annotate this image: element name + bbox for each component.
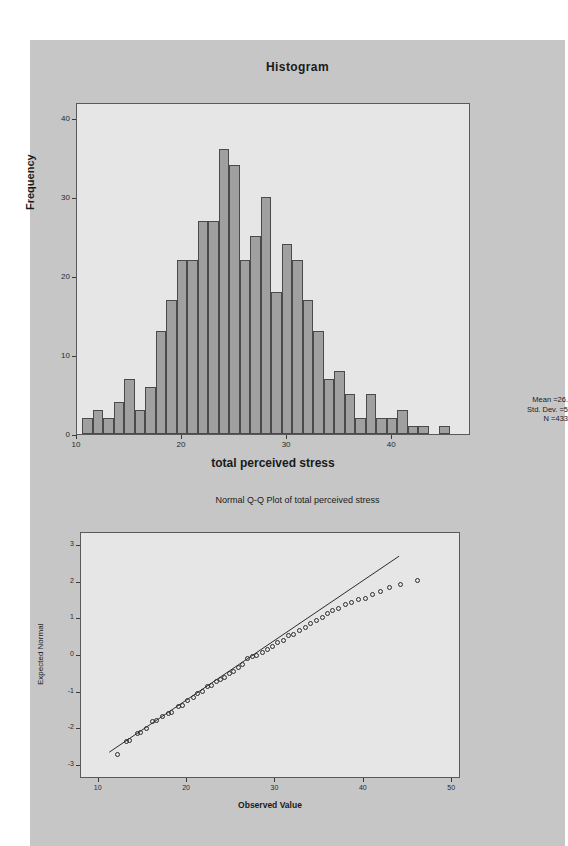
histogram-bar — [324, 379, 335, 434]
qq-y-tick-mark — [76, 765, 80, 766]
histogram-statistics-annotation: Mean =26. Std. Dev. =5 N =433 — [482, 395, 568, 424]
qq-data-point — [160, 714, 165, 719]
qq-data-point — [195, 691, 200, 696]
qq-y-tick-mark — [76, 582, 80, 583]
qq-data-point — [378, 589, 383, 594]
histogram-x-axis-label: total perceived stress — [76, 456, 470, 470]
histogram-x-tick-label: 20 — [169, 440, 193, 449]
qq-data-point — [291, 632, 296, 637]
histogram-bar — [82, 418, 93, 434]
qq-data-point — [314, 618, 319, 623]
histogram-bar — [93, 410, 104, 434]
qq-x-axis-label: Observed Value — [80, 800, 460, 810]
qq-x-tick-label: 10 — [86, 784, 110, 791]
histogram-y-tick-mark — [72, 277, 76, 278]
qq-y-tick-mark — [76, 728, 80, 729]
histogram-bar — [219, 149, 230, 434]
histogram-x-tick-mark — [181, 435, 182, 439]
qq-data-point — [254, 653, 259, 658]
histogram-bar — [334, 371, 345, 434]
histogram-bar — [103, 418, 114, 434]
histogram-bar — [418, 426, 429, 434]
qq-y-tick-label: 2 — [56, 577, 74, 584]
histogram-mean-label: Mean =26. — [482, 395, 568, 405]
histogram-bar — [166, 300, 177, 434]
histogram-x-tick-label: 30 — [274, 440, 298, 449]
histogram-bar — [240, 260, 251, 434]
qq-y-tick-label: 3 — [56, 540, 74, 547]
histogram-bar — [282, 244, 293, 434]
qq-y-tick-mark — [76, 692, 80, 693]
histogram-bar — [292, 260, 303, 434]
qq-data-point — [398, 582, 403, 587]
histogram-y-tick-label: 10 — [50, 351, 70, 360]
histogram-bar — [271, 292, 282, 434]
histogram-bar — [177, 260, 188, 434]
qq-x-tick-mark — [451, 778, 452, 782]
qq-y-tick-label: -2 — [56, 723, 74, 730]
qq-data-point — [127, 738, 132, 743]
histogram-x-tick-label: 10 — [64, 440, 88, 449]
spss-output-panel: Histogram Frequency 010203040 10203040 t… — [30, 40, 565, 846]
histogram-stddev-label: Std. Dev. =5 — [482, 405, 568, 415]
qq-y-tick-mark — [76, 545, 80, 546]
qq-x-tick-label: 50 — [439, 784, 463, 791]
histogram-x-tick-mark — [76, 435, 77, 439]
histogram-y-tick-mark — [72, 198, 76, 199]
qq-data-point — [281, 638, 286, 643]
histogram-bar — [198, 221, 209, 434]
histogram-bar — [187, 260, 198, 434]
histogram-y-tick-label: 30 — [50, 193, 70, 202]
histogram-bar — [303, 300, 314, 434]
qq-plot-title: Normal Q-Q Plot of total perceived stres… — [30, 495, 565, 505]
qq-data-point — [343, 602, 348, 607]
qq-data-point — [231, 669, 236, 674]
qq-x-tick-label: 40 — [351, 784, 375, 791]
histogram-bar — [229, 165, 240, 434]
qq-y-tick-label: 1 — [56, 613, 74, 620]
qq-data-point — [370, 592, 375, 597]
qq-reference-line — [81, 533, 460, 778]
qq-y-tick-label: -1 — [56, 687, 74, 694]
histogram-y-tick-label: 0 — [50, 430, 70, 439]
histogram-y-tick-label: 40 — [50, 114, 70, 123]
histogram-chart: Histogram Frequency 010203040 10203040 t… — [30, 40, 565, 460]
histogram-x-tick-mark — [391, 435, 392, 439]
qq-x-tick-mark — [363, 778, 364, 782]
qq-y-tick-label: -3 — [56, 760, 74, 767]
qq-y-axis-label: Expected Normal — [36, 624, 45, 685]
histogram-bar — [145, 387, 156, 434]
histogram-bar — [135, 410, 146, 434]
qq-plot-area — [80, 532, 460, 778]
qq-data-point — [154, 718, 159, 723]
histogram-bar — [408, 426, 419, 434]
qq-data-point — [363, 596, 368, 601]
histogram-bar — [250, 236, 261, 434]
qq-data-point — [115, 752, 120, 757]
histogram-title: Histogram — [30, 60, 565, 74]
qq-y-tick-mark — [76, 618, 80, 619]
histogram-bar — [156, 331, 167, 434]
qq-x-tick-mark — [274, 778, 275, 782]
qq-data-point — [303, 625, 308, 630]
qq-x-tick-mark — [186, 778, 187, 782]
qq-data-point — [297, 628, 302, 633]
qq-x-tick-label: 20 — [174, 784, 198, 791]
histogram-x-tick-mark — [286, 435, 287, 439]
qq-data-point — [320, 615, 325, 620]
histogram-bar — [313, 331, 324, 434]
histogram-bar — [114, 402, 125, 434]
qq-data-point — [144, 726, 149, 731]
histogram-y-tick-mark — [72, 119, 76, 120]
histogram-bar — [124, 379, 135, 434]
histogram-bar — [439, 426, 450, 434]
histogram-bar — [376, 418, 387, 434]
qq-data-point — [245, 656, 250, 661]
histogram-n-label: N =433 — [482, 414, 568, 424]
qq-chart: Normal Q-Q Plot of total perceived stres… — [30, 470, 565, 846]
histogram-y-tick-mark — [72, 356, 76, 357]
histogram-bar — [345, 394, 356, 434]
histogram-bar — [366, 394, 377, 434]
histogram-plot-area — [76, 103, 470, 435]
qq-y-tick-label: 0 — [56, 650, 74, 657]
